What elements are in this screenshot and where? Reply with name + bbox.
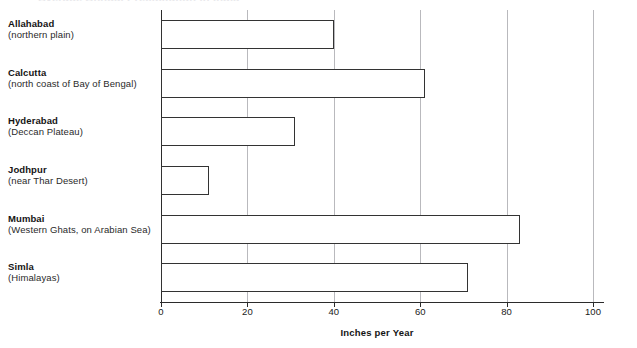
x-tick-label-0: 0 [141,306,181,317]
category-subtitle: (Himalayas) [8,272,156,284]
gridline-20 [247,10,248,302]
category-name: Jodhpur [8,164,156,175]
gridline-80 [507,10,508,302]
category-subtitle: (north coast of Bay of Bengal) [8,78,156,90]
y-axis-line [161,10,162,302]
category-subtitle: (Western Ghats, on Arabian Sea) [8,224,156,236]
category-subtitle: (northern plain) [8,29,156,41]
category-name: Allahabad [8,18,156,29]
x-tick-label-40: 40 [314,306,354,317]
bar-hyderabad [161,117,295,146]
bar-mumbai [161,215,520,244]
category-name: Calcutta [8,67,156,78]
category-label-mumbai: Mumbai(Western Ghats, on Arabian Sea) [8,213,156,236]
category-label-hyderabad: Hyderabad(Deccan Plateau) [8,115,156,138]
precipitation-bar-chart: Average Annual Precipitation in India Al… [0,0,637,348]
category-label-calcutta: Calcutta(north coast of Bay of Bengal) [8,67,156,90]
category-label-column: Allahabad(northern plain)Calcutta(north … [0,10,156,302]
x-axis-line [160,302,604,303]
category-name: Mumbai [8,213,156,224]
category-subtitle: (Deccan Plateau) [8,126,156,138]
category-name: Hyderabad [8,115,156,126]
gridline-100 [593,10,594,302]
x-tick-label-80: 80 [487,306,527,317]
x-tick-label-60: 60 [400,306,440,317]
x-axis-title: Inches per Year [161,327,593,338]
category-label-simla: Simla(Himalayas) [8,261,156,284]
x-tick-label-100: 100 [573,306,613,317]
bar-jodhpur [161,166,209,195]
gridline-40 [334,10,335,302]
plot-area [161,10,593,302]
category-name: Simla [8,261,156,272]
category-subtitle: (near Thar Desert) [8,175,156,187]
gridline-60 [420,10,421,302]
category-label-allahabad: Allahabad(northern plain) [8,18,156,41]
bar-allahabad [161,20,334,49]
clipped-chart-title: Average Annual Precipitation in India [38,0,240,1]
category-label-jodhpur: Jodhpur(near Thar Desert) [8,164,156,187]
bar-simla [161,263,468,292]
bar-calcutta [161,69,425,98]
x-tick-label-20: 20 [227,306,267,317]
